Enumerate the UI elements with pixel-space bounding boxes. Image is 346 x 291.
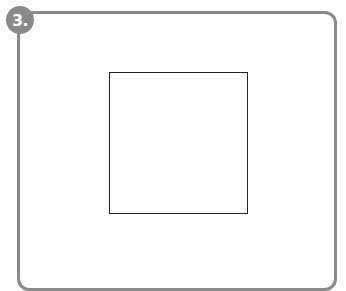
item-number-badge: 3. bbox=[6, 6, 34, 34]
square-shape bbox=[109, 72, 248, 214]
